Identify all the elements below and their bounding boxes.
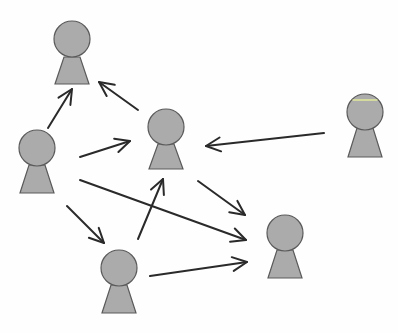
arrow-center-to-bottom-right [198, 181, 245, 215]
arrowhead-icon [59, 89, 72, 105]
person-node-bottom [101, 250, 137, 313]
person-head-icon [19, 130, 55, 166]
person-node-center [148, 109, 184, 169]
person-body-icon [348, 128, 382, 157]
arrow-left-to-center [80, 139, 130, 157]
person-node-bottom-right [267, 215, 303, 278]
person-body-icon [102, 285, 136, 313]
arrow-left-to-bottom [67, 206, 104, 243]
person-head-icon [54, 21, 90, 57]
person-body-icon [268, 250, 302, 278]
person-node-right [347, 94, 383, 157]
person-body-icon [55, 57, 89, 84]
person-head-icon [267, 215, 303, 251]
arrow-left-to-top [48, 89, 72, 128]
diagram-canvas [0, 0, 398, 333]
person-body-icon [20, 165, 54, 193]
person-head-icon [148, 109, 184, 145]
person-node-left [19, 130, 55, 193]
person-body-icon [149, 144, 183, 169]
person-head-icon [101, 250, 137, 286]
person-node-top [54, 21, 90, 84]
arrow-bottom-to-bottom-right [150, 257, 247, 276]
arrow-right-to-center [206, 133, 324, 151]
arrow-center-to-top [99, 82, 138, 110]
network-diagram [0, 0, 398, 333]
